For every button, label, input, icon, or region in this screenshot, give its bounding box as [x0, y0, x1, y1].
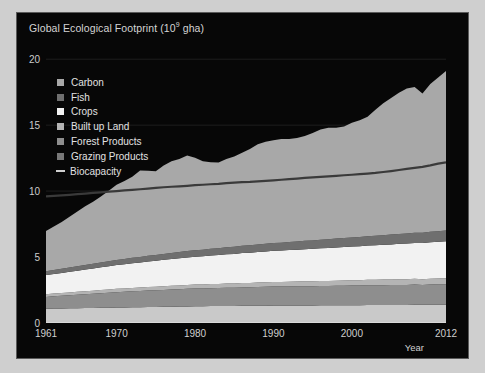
y-axis-tick-label: 20 — [29, 54, 40, 65]
legend-color-swatch — [57, 153, 64, 160]
legend-item-label: Forest Products — [71, 136, 142, 147]
legend-color-swatch — [57, 108, 64, 115]
x-axis-tick-label: 1990 — [262, 328, 284, 339]
figure-canvas: Global Ecological Footprint (109 gha) 05… — [0, 0, 485, 373]
x-axis-tick-label: 2000 — [341, 328, 363, 339]
legend-item[interactable]: Forest Products — [57, 134, 148, 149]
legend-item-label: Fish — [71, 92, 90, 103]
chart-legend: CarbonFishCropsBuilt up LandForest Produ… — [57, 75, 148, 179]
chart-panel: Global Ecological Footprint (109 gha) 05… — [16, 12, 469, 359]
legend-color-swatch — [57, 123, 64, 130]
legend-item-label: Built up Land — [71, 121, 129, 132]
chart-title-main: Global Ecological Footprint (10 — [29, 22, 176, 34]
x-axis-tick-label: 2012 — [435, 328, 457, 339]
legend-color-swatch — [57, 94, 64, 101]
legend-item[interactable]: Fish — [57, 90, 148, 105]
legend-color-swatch — [57, 79, 64, 86]
chart-title: Global Ecological Footprint (109 gha) — [29, 21, 204, 34]
y-axis-tick-label: 10 — [29, 186, 40, 197]
legend-item[interactable]: Grazing Products — [57, 149, 148, 164]
x-axis-tick-label: 1980 — [184, 328, 206, 339]
legend-color-swatch — [57, 138, 64, 145]
legend-item-label: Crops — [71, 106, 98, 117]
legend-item[interactable]: Biocapacity — [57, 164, 148, 179]
legend-item[interactable]: Crops — [57, 105, 148, 120]
y-axis-tick-label: 5 — [34, 252, 40, 263]
x-axis-label: Year — [405, 342, 424, 353]
legend-item-label: Grazing Products — [71, 151, 148, 162]
legend-item[interactable]: Built up Land — [57, 119, 148, 134]
y-axis-tick-label: 15 — [29, 120, 40, 131]
legend-item-label: Carbon — [71, 77, 104, 88]
legend-line-swatch — [56, 170, 65, 172]
legend-item-label: Biocapacity — [70, 166, 121, 177]
x-axis-tick-label: 1970 — [105, 328, 127, 339]
x-axis-tick-label: 1961 — [35, 328, 57, 339]
y-axis-tick-label: 0 — [34, 318, 40, 329]
legend-item[interactable]: Carbon — [57, 75, 148, 90]
chart-title-tail: gha) — [180, 22, 204, 34]
